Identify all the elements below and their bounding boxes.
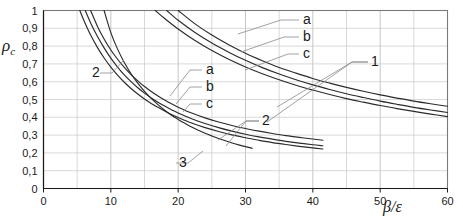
- x-tick-label: 20: [172, 195, 184, 207]
- curve-annotation-1-c: c: [303, 45, 310, 61]
- callout-leader-lines: [100, 20, 368, 163]
- curve-annotation-2-a: a: [206, 61, 214, 77]
- y-axis-label-subscript: c: [10, 45, 15, 57]
- y-tick-label: 0: [31, 183, 37, 195]
- y-tick-label: 0,9: [22, 22, 37, 34]
- y-tick-label: 1: [31, 5, 37, 17]
- curve-annotation-3-3: 3: [179, 154, 187, 170]
- x-tick-label: 30: [239, 195, 251, 207]
- callout-leader: [267, 62, 368, 122]
- chart-container: 0102030405060 00,10,20,30,40,50,60,70,80…: [0, 0, 463, 221]
- x-tick-label: 40: [307, 195, 319, 207]
- y-tick-label: 0,3: [22, 129, 37, 141]
- chart-plot-svg: 0102030405060 00,10,20,30,40,50,60,70,80…: [0, 0, 463, 221]
- curve-annotation-1-a: a: [303, 11, 311, 27]
- y-axis-label: ρc: [2, 36, 15, 57]
- y-tick-label: 0,5: [22, 94, 37, 106]
- curve-annotation-2-c: c: [206, 95, 213, 111]
- x-axis-label: β/ε: [383, 198, 402, 216]
- curve-annotation-2-2: 2: [92, 64, 100, 80]
- y-tick-label: 0,1: [22, 165, 37, 177]
- x-tick-label: 10: [105, 195, 117, 207]
- data-curve-2c: [80, 11, 323, 149]
- y-axis-label-symbol: ρ: [2, 36, 10, 55]
- curve-annotation-1-1: 1: [371, 53, 379, 69]
- y-tick-label: 0,8: [22, 40, 37, 52]
- curve-annotation-1-b: b: [303, 28, 311, 44]
- x-tick-label: 0: [40, 195, 46, 207]
- curve-annotations: abc1abc223: [92, 11, 379, 170]
- grid-lines: [44, 11, 448, 189]
- curve-annotation-2-2: 2: [262, 112, 270, 128]
- y-tick-label: 0,4: [22, 111, 37, 123]
- callout-leader: [176, 87, 202, 104]
- y-tick-label: 0,7: [22, 58, 37, 70]
- callout-leader: [241, 37, 299, 52]
- x-tick-label: 60: [441, 195, 453, 207]
- y-tick-label: 0,2: [22, 147, 37, 159]
- y-axis-tick-labels: 00,10,20,30,40,50,60,70,80,91: [22, 5, 37, 195]
- curve-annotation-2-b: b: [206, 78, 214, 94]
- callout-leader: [238, 20, 299, 34]
- data-curves: [80, 11, 448, 149]
- y-tick-label: 0,6: [22, 76, 37, 88]
